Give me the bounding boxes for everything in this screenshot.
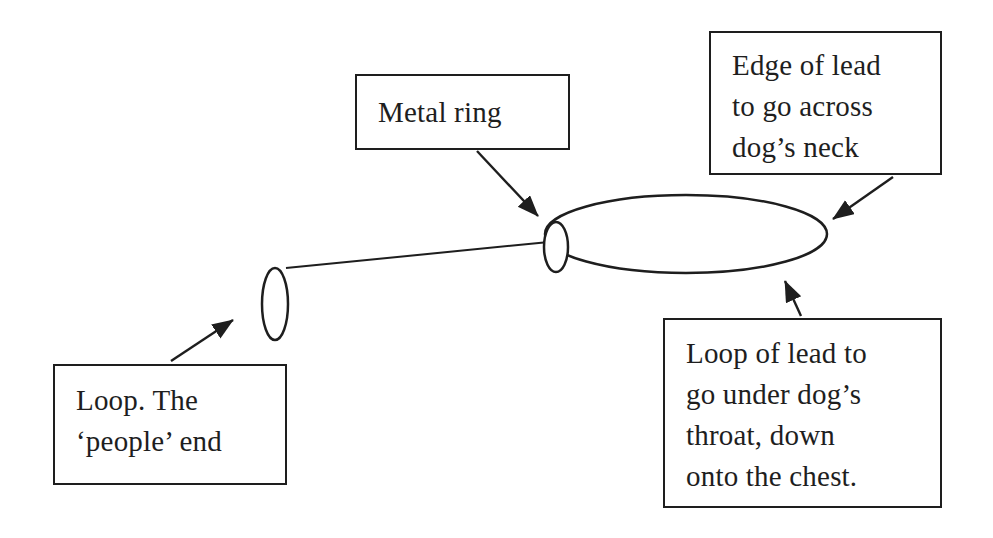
metal-ring-ellipse — [544, 222, 568, 272]
people-label-line-2: ‘people’ end — [76, 421, 279, 462]
diagram-canvas: Metal ring Edge of lead to go across dog… — [0, 0, 993, 538]
arrow-loop-under-throat — [785, 281, 801, 316]
edge-label-line-3: dog’s neck — [732, 127, 934, 168]
edge-label-line-2: to go across — [732, 86, 934, 127]
people-label-line-1: Loop. The — [76, 380, 279, 421]
people-end-ellipse — [262, 268, 288, 340]
loop-label-line-1: Loop of lead to — [686, 333, 934, 374]
loop-label-line-4: onto the chest. — [686, 456, 934, 497]
neck-loop-ellipse — [545, 195, 827, 273]
people-end-label-box: Loop. The ‘people’ end — [53, 364, 287, 485]
loop-under-throat-label-box: Loop of lead to go under dog’s throat, d… — [663, 318, 942, 508]
arrow-edge-of-lead — [833, 177, 893, 219]
arrow-metal-ring — [477, 151, 538, 216]
loop-label-line-3: throat, down — [686, 415, 934, 456]
metal-ring-label-text: Metal ring — [378, 92, 502, 133]
edge-of-lead-label-box: Edge of lead to go across dog’s neck — [709, 31, 942, 175]
edge-label-line-1: Edge of lead — [732, 45, 934, 86]
lead-cord-line — [286, 242, 549, 268]
loop-label-line-2: go under dog’s — [686, 374, 934, 415]
metal-ring-label-box: Metal ring — [355, 74, 570, 150]
arrow-people-end — [171, 320, 233, 361]
